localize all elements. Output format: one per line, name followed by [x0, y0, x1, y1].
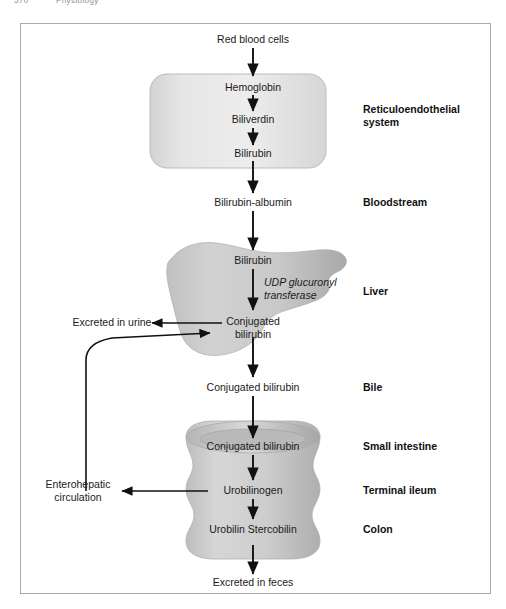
region-label-reticuloendothelial-system: Reticuloendothelial system — [363, 103, 460, 128]
node-excreted-in-feces: Excreted in feces — [213, 576, 294, 589]
node-bilirubin-res: Bilirubin — [234, 147, 271, 160]
enzyme-udp-glucuronyl-transferase: UDP glucuronyl transferase — [264, 276, 337, 301]
output-excreted-in-urine: Excreted in urine — [73, 316, 152, 329]
node-conjugated-bilirubin-liver: Conjugated bilirubin — [208, 315, 298, 340]
enterohepatic-return-path — [86, 333, 210, 491]
node-bilirubin-liver: Bilirubin — [234, 254, 271, 267]
node-urobilin-stercobilin: Urobilin Stercobilin — [208, 523, 298, 536]
region-label-small-intestine: Small intestine — [363, 440, 437, 453]
node-hemoglobin: Hemoglobin — [225, 81, 281, 94]
node-red-blood-cells: Red blood cells — [217, 33, 289, 46]
node-urobilinogen: Urobilinogen — [224, 484, 283, 497]
node-bilirubin-albumin: Bilirubin-albumin — [214, 196, 292, 209]
region-label-colon: Colon — [363, 523, 393, 536]
region-label-bile: Bile — [363, 381, 382, 394]
region-label-liver: Liver — [363, 285, 388, 298]
region-label-terminal-ileum: Terminal ileum — [363, 484, 436, 497]
region-label-bloodstream: Bloodstream — [363, 196, 427, 209]
output-enterohepatic-circulation: Enterohepatic circulation — [23, 478, 133, 503]
node-biliverdin: Biliverdin — [232, 113, 275, 126]
node-conjugated-bilirubin-gut: Conjugated bilirubin — [207, 440, 300, 453]
node-conjugated-bilirubin-bile: Conjugated bilirubin — [207, 381, 300, 394]
